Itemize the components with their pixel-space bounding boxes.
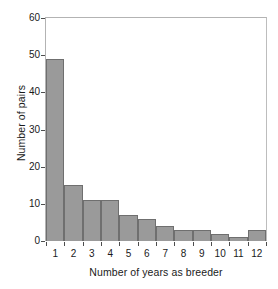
bar	[193, 230, 211, 241]
bar	[248, 230, 266, 241]
bar	[174, 230, 192, 241]
bar	[211, 234, 229, 241]
y-axis-tick-labels: 0102030405060	[22, 0, 40, 289]
x-axis-tick-mark	[248, 242, 249, 246]
bar	[101, 200, 119, 241]
bar	[138, 219, 156, 241]
y-axis-tick-label: 0	[22, 236, 40, 246]
x-axis-tick-mark	[174, 242, 175, 246]
x-axis-tick-mark	[101, 242, 102, 246]
x-axis-tick-mark	[64, 242, 65, 246]
bar	[83, 200, 101, 241]
y-axis-tick-label: 10	[22, 199, 40, 209]
x-axis-tick-mark	[211, 242, 212, 246]
x-axis-tick-mark	[83, 242, 84, 246]
y-axis-tick-label: 50	[22, 50, 40, 60]
x-axis-tick-mark	[266, 242, 267, 246]
bar	[119, 215, 137, 241]
y-axis-tick-label: 30	[22, 125, 40, 135]
x-axis-tick-mark	[193, 242, 194, 246]
x-axis-tick-mark	[119, 242, 120, 246]
y-axis-tick-mark	[41, 241, 45, 242]
x-axis-title: Number of years as breeder	[45, 266, 267, 278]
plot-area	[46, 18, 266, 241]
x-axis-tick-mark	[46, 242, 47, 246]
y-axis-tick-label: 40	[22, 87, 40, 97]
x-axis-tick-mark	[229, 242, 230, 246]
histogram-figure: Number of pairs 0102030405060 1234567891…	[0, 0, 278, 289]
bar	[64, 185, 82, 241]
x-axis-tick-label: 12	[246, 248, 268, 259]
y-axis-tick-label: 60	[22, 13, 40, 23]
bar	[156, 226, 174, 241]
bar	[46, 59, 64, 241]
x-axis-tick-mark	[156, 242, 157, 246]
x-axis-tick-mark	[138, 242, 139, 246]
y-axis-tick-label: 20	[22, 162, 40, 172]
bar	[229, 237, 247, 241]
